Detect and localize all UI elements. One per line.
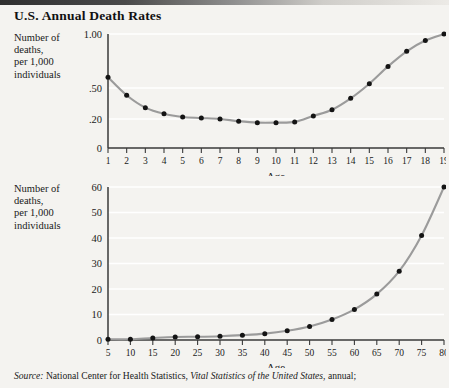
data-curve-top (108, 34, 444, 123)
x-tick-label-bottom-8: 45 (282, 348, 292, 358)
data-point-bottom-55 (330, 317, 335, 322)
data-point-top-3 (143, 105, 148, 110)
data-point-bottom-40 (262, 331, 267, 336)
data-point-bottom-20 (173, 334, 178, 339)
x-tick-label-top-13: 14 (346, 156, 356, 166)
data-point-bottom-50 (307, 324, 312, 329)
data-point-top-1 (106, 75, 111, 80)
data-point-top-6 (199, 115, 204, 120)
y-tick-label-bottom-1: 10 (92, 309, 103, 320)
data-point-bottom-60 (352, 307, 357, 312)
x-tick-label-top-9: 10 (271, 156, 281, 166)
source-body-2: , annual; (323, 370, 356, 381)
x-tick-label-top-6: 7 (218, 156, 223, 166)
x-tick-label-bottom-4: 25 (193, 348, 203, 358)
y-tick-label-top-1: .50 (89, 83, 102, 94)
data-point-top-2 (124, 93, 129, 98)
data-point-bottom-30 (218, 334, 223, 339)
source-note: Source: National Center for Health Stati… (14, 370, 356, 381)
source-body-1: National Center for Health Statistics, (43, 370, 190, 381)
data-point-top-14 (348, 96, 353, 101)
data-point-bottom-65 (374, 292, 379, 297)
x-tick-label-bottom-5: 30 (215, 348, 225, 358)
data-point-top-19 (442, 32, 447, 37)
x-tick-label-bottom-13: 70 (394, 348, 404, 358)
y-tick-label-top-2: .20 (89, 114, 102, 125)
data-point-bottom-10 (128, 337, 133, 342)
source-prefix: Source: (14, 370, 43, 381)
data-point-bottom-70 (397, 269, 402, 274)
x-tick-label-bottom-6: 35 (238, 348, 248, 358)
data-point-top-18 (423, 38, 428, 43)
data-point-top-16 (386, 64, 391, 69)
x-tick-label-top-8: 9 (255, 156, 260, 166)
x-tick-label-top-17: 18 (421, 156, 431, 166)
y-tick-label-bottom-0: 0 (97, 335, 102, 346)
y-axis-label-bottom-chart: Number of deaths, per 1,000 individuals (14, 183, 61, 232)
data-point-top-11 (292, 119, 297, 124)
x-tick-label-top-1: 2 (124, 156, 129, 166)
data-point-top-9 (255, 120, 260, 125)
y-tick-label-top-0: 1.00 (84, 29, 102, 40)
x-tick-label-top-10: 11 (290, 156, 299, 166)
x-tick-label-bottom-3: 20 (170, 348, 180, 358)
data-point-top-13 (330, 107, 335, 112)
x-tick-label-top-3: 4 (162, 156, 167, 166)
x-tick-label-bottom-10: 55 (327, 348, 337, 358)
y-tick-label-bottom-4: 40 (92, 233, 103, 244)
data-point-top-7 (218, 117, 223, 122)
data-point-top-10 (274, 120, 279, 125)
data-point-top-12 (311, 113, 316, 118)
x-tick-label-bottom-7: 40 (260, 348, 270, 358)
y-tick-label-bottom-6: 60 (92, 182, 103, 193)
chart-death-rates-ages-1-19: 1.00.50.20012345678910111213141516171819… (78, 28, 446, 176)
x-axis-title-bottom: Age (267, 361, 285, 368)
x-tick-label-bottom-9: 50 (305, 348, 315, 358)
x-tick-label-top-4: 5 (180, 156, 185, 166)
x-tick-label-bottom-11: 60 (350, 348, 360, 358)
x-tick-label-top-14: 15 (365, 156, 375, 166)
x-tick-label-top-12: 13 (327, 156, 337, 166)
source-italic-title: Vital Statistics of the United States (190, 370, 323, 381)
x-tick-label-top-18: 19 (439, 156, 446, 166)
data-point-bottom-15 (150, 335, 155, 340)
x-tick-label-bottom-12: 65 (372, 348, 382, 358)
x-tick-label-top-15: 16 (383, 156, 393, 166)
x-tick-label-top-0: 1 (106, 156, 111, 166)
chart-death-rates-ages-5-80: 0102030405060510152025303540455055606570… (78, 182, 446, 368)
y-tick-label-bottom-2: 20 (92, 284, 103, 295)
data-point-top-8 (236, 119, 241, 124)
data-point-top-17 (404, 49, 409, 54)
y-tick-label-top-3: 0 (97, 143, 102, 154)
x-tick-label-top-2: 3 (143, 156, 148, 166)
x-tick-label-bottom-15: 80 (439, 348, 446, 358)
x-tick-label-top-5: 6 (199, 156, 204, 166)
data-point-bottom-25 (195, 334, 200, 339)
y-axis-label-top-chart: Number of deaths, per 1,000 individuals (14, 32, 61, 81)
x-axis-title-top: Age (267, 170, 285, 176)
y-tick-label-bottom-5: 50 (92, 207, 103, 218)
data-point-top-5 (180, 114, 185, 119)
top-rule-decoration (0, 0, 449, 5)
data-point-bottom-5 (106, 337, 111, 342)
x-tick-label-bottom-1: 10 (126, 348, 136, 358)
data-point-bottom-45 (285, 328, 290, 333)
x-tick-label-bottom-2: 15 (148, 348, 158, 358)
data-point-top-4 (162, 111, 167, 116)
data-point-top-15 (367, 81, 372, 86)
x-tick-label-top-7: 8 (236, 156, 241, 166)
y-tick-label-bottom-3: 30 (92, 258, 103, 269)
data-point-bottom-35 (240, 333, 245, 338)
x-tick-label-bottom-14: 75 (417, 348, 427, 358)
data-point-bottom-75 (419, 233, 424, 238)
figure-page: U.S. Annual Death Rates Number of deaths… (0, 0, 449, 388)
x-tick-label-top-16: 17 (402, 156, 412, 166)
x-tick-label-top-11: 12 (309, 156, 319, 166)
page-title: U.S. Annual Death Rates (14, 8, 162, 24)
x-tick-label-bottom-0: 5 (106, 348, 111, 358)
